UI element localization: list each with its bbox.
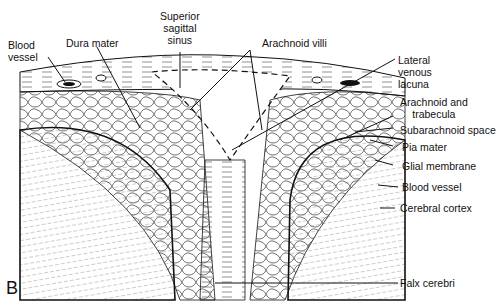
label-arachnoid-and-trabecula: Arachnoid and trabecula (400, 96, 468, 120)
blood-vessel-icon (63, 82, 75, 86)
falx-cerebri (200, 160, 245, 300)
label-arachnoid-villi: Arachnoid villi (262, 37, 327, 49)
lacuna-icon (340, 80, 360, 86)
label-dura-mater: Dura mater (66, 37, 119, 49)
label-subarachnoid-space: Subarachnoid space (400, 124, 496, 136)
label-falx-cerebri: Falx cerebri (400, 277, 455, 289)
label-lateral-venous-lacuna: Lateral venous lacuna (398, 54, 432, 90)
panel-letter: B (6, 278, 18, 299)
label-glial-membrane: Glial membrane (402, 160, 476, 172)
label-pia-mater: Pia mater (402, 141, 447, 153)
label-superior-sagittal-sinus: Superior sagittal sinus (160, 10, 200, 46)
label-blood-vessel-top: Blood vessel (8, 39, 38, 63)
blood-vessel-icon (96, 75, 106, 81)
blood-vessel-icon (312, 77, 322, 83)
label-cerebral-cortex: Cerebral cortex (400, 202, 472, 214)
label-blood-vessel-right: Blood vessel (402, 181, 462, 193)
